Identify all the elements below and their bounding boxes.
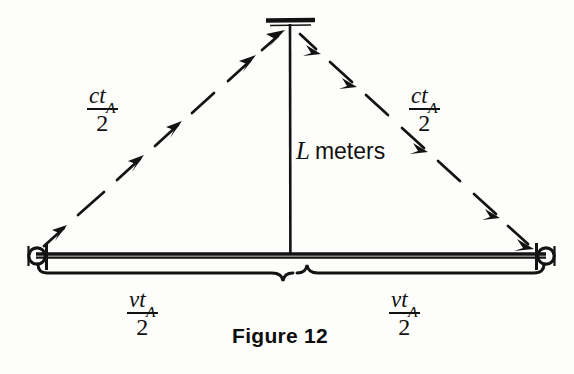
brace-left <box>38 264 293 281</box>
fraction-vt-a-over-2-left: vtA 2 <box>126 288 159 339</box>
figure-caption: Figure 12 <box>232 325 328 346</box>
height-symbol: L <box>296 137 315 164</box>
fraction-vt-a-over-2-right: vtA 2 <box>388 288 421 339</box>
fraction-numerator: ctA <box>86 84 119 108</box>
fraction-numerator: vtA <box>388 288 421 312</box>
label-base-left: vtA 2 <box>126 288 159 339</box>
label-hypotenuse-right: ctA 2 <box>408 84 441 135</box>
label-base-right: vtA 2 <box>388 288 421 339</box>
figure-12-diagram: ctA 2 ctA 2 Lmeters vtA 2 vtA 2 Figure 1… <box>0 0 574 374</box>
fraction-numerator: vtA <box>126 288 159 312</box>
height-unit: meters <box>315 138 385 164</box>
diagram-canvas <box>0 0 574 374</box>
fraction-ct-a-over-2-right: ctA 2 <box>408 84 441 135</box>
dashed-arrow-up-right-icon <box>44 36 278 246</box>
brace-right <box>297 264 544 273</box>
label-vertical-height: Lmeters <box>296 138 385 163</box>
fraction-numerator: ctA <box>408 84 441 108</box>
fraction-ct-a-over-2-left: ctA 2 <box>86 84 119 135</box>
mirror-bar-icon <box>266 20 315 26</box>
label-hypotenuse-left: ctA 2 <box>86 84 119 135</box>
